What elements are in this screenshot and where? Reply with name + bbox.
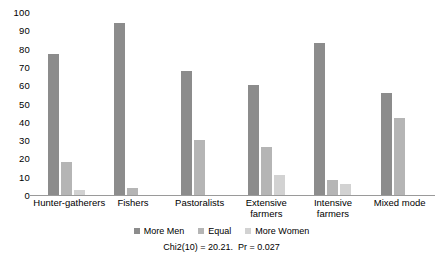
bar-group xyxy=(100,12,166,195)
y-axis-tick-label: 10 xyxy=(19,171,30,182)
x-axis-category-label: Hunter-gatherers xyxy=(33,197,99,225)
bar xyxy=(114,23,125,195)
x-axis-category-labels: Hunter-gatherersFishersPastoralistsExten… xyxy=(33,197,433,225)
x-axis-category-label: Intensivefarmers xyxy=(300,197,366,225)
bar xyxy=(61,162,72,195)
y-axis: 1009080706050403020100 xyxy=(0,12,30,195)
bar xyxy=(314,43,325,195)
x-axis-category-label: Fishers xyxy=(100,197,166,225)
legend-label: More Women xyxy=(255,226,309,236)
y-axis-tick-label: 20 xyxy=(19,153,30,164)
y-axis-tick-label: 90 xyxy=(19,25,30,36)
y-axis-tick-label: 30 xyxy=(19,135,30,146)
chart-legend: More MenEqualMore Women xyxy=(0,226,443,236)
bar xyxy=(127,188,138,195)
y-axis-tick-label: 80 xyxy=(19,43,30,54)
y-axis-tick-label: 50 xyxy=(19,98,30,109)
bar xyxy=(248,85,259,195)
bar-group xyxy=(300,12,366,195)
bar xyxy=(194,140,205,195)
x-axis-category-label: Mixed mode xyxy=(367,197,433,225)
plot-area xyxy=(33,12,433,195)
bar-group xyxy=(233,12,299,195)
bar xyxy=(340,184,351,195)
bar xyxy=(394,118,405,195)
bar-group xyxy=(367,12,433,195)
legend-swatch-icon xyxy=(198,228,204,234)
bar xyxy=(261,147,272,195)
legend-item: Equal xyxy=(198,226,231,236)
chi-square-annotation: Chi2(10) = 20.21. Pr = 0.027 xyxy=(0,242,443,252)
bar-group xyxy=(33,12,99,195)
x-axis-category-label: Pastoralists xyxy=(167,197,233,225)
legend-label: More Men xyxy=(144,226,185,236)
bar-chart: 1009080706050403020100 Hunter-gatherersF… xyxy=(0,0,443,262)
y-axis-tick-label: 60 xyxy=(19,80,30,91)
legend-swatch-icon xyxy=(134,228,140,234)
bar xyxy=(74,190,85,195)
bar xyxy=(327,180,338,195)
bar xyxy=(48,54,59,195)
legend-item: More Women xyxy=(245,226,309,236)
x-axis-line xyxy=(30,195,435,196)
legend-item: More Men xyxy=(134,226,185,236)
x-axis-category-label: Extensivefarmers xyxy=(233,197,299,225)
y-axis-tick-label: 100 xyxy=(14,7,30,18)
bar-groups xyxy=(33,12,433,195)
bar xyxy=(381,93,392,195)
y-axis-tick-label: 40 xyxy=(19,116,30,127)
bar-group xyxy=(167,12,233,195)
legend-label: Equal xyxy=(208,226,231,236)
bar xyxy=(274,175,285,195)
bar xyxy=(181,71,192,195)
y-axis-tick-label: 70 xyxy=(19,61,30,72)
legend-swatch-icon xyxy=(245,228,251,234)
